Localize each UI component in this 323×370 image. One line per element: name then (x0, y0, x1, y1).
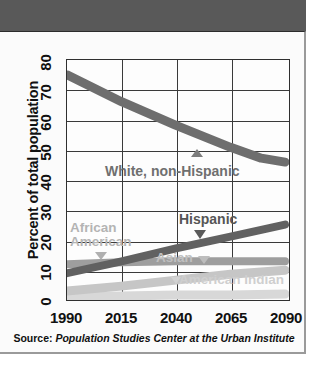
x-tick-1990: 1990 (38, 309, 94, 326)
series-label-african-american: African American (70, 221, 132, 249)
series-label-african-line1: African (70, 220, 117, 235)
y-tick-40: 40 (37, 170, 54, 196)
top-dark-band (0, 0, 306, 31)
triangle-down-icon-african-american (95, 252, 107, 260)
triangle-down-icon-hispanic (194, 230, 206, 239)
series-label-hispanic: Hispanic (179, 212, 237, 226)
x-tick-2040: 2040 (148, 309, 204, 326)
series-label-white-non-hispanic: White, non-Hispanic (105, 164, 240, 178)
y-tick-70: 70 (37, 80, 54, 106)
chart-screenshot: Percent of total population 80 70 60 50 … (0, 0, 323, 370)
y-tick-50: 50 (37, 140, 54, 166)
chart-figure-panel: Percent of total population 80 70 60 50 … (0, 31, 306, 354)
y-tick-20: 20 (37, 230, 54, 256)
source-note: Source: Population Studies Center at the… (8, 332, 300, 344)
source-prefix: Source: (13, 332, 52, 344)
y-tick-80: 80 (37, 50, 54, 76)
series-label-african-line2: American (70, 234, 132, 249)
triangle-down-icon-american-indian (171, 277, 181, 284)
triangle-down-icon-asian (198, 256, 210, 264)
line-white-non-hispanic (67, 75, 285, 162)
triangle-up-icon-white (191, 149, 203, 157)
y-tick-10: 10 (37, 260, 54, 286)
x-tick-2015: 2015 (93, 309, 149, 326)
y-tick-60: 60 (37, 110, 54, 136)
source-text: Population Studies Center at the Urban I… (55, 332, 294, 344)
y-tick-30: 30 (37, 200, 54, 226)
line-american-indian (67, 294, 285, 297)
plot-area: White, non-Hispanic African American His… (66, 59, 290, 301)
x-tick-2090: 2090 (258, 309, 314, 326)
series-label-american-indian: American Indian (179, 273, 284, 287)
top-band-right-gap (306, 0, 323, 31)
x-tick-2065: 2065 (203, 309, 259, 326)
series-label-asian: Asian (156, 251, 193, 265)
